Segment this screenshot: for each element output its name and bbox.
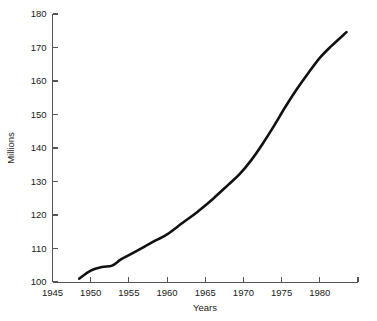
x-tick-label: 1950: [80, 287, 101, 298]
y-tick-label: 130: [31, 176, 47, 187]
x-axis-title: Years: [193, 302, 217, 313]
y-tick-label: 170: [31, 42, 47, 53]
y-tick-label: 120: [31, 209, 47, 220]
x-tick-label: 1945: [42, 287, 63, 298]
data-series-line: [79, 32, 346, 279]
y-axis-ticks: [53, 14, 58, 282]
axes-group: [53, 14, 359, 283]
line-chart-figure: 100110120130140150160170180 194519501955…: [0, 0, 377, 321]
y-axis-title: Millions: [5, 132, 16, 164]
x-axis-ticks: [53, 277, 359, 282]
x-tick-label: 1970: [233, 287, 254, 298]
y-tick-label: 160: [31, 75, 47, 86]
x-tick-label: 1980: [309, 287, 330, 298]
chart-canvas: 100110120130140150160170180 194519501955…: [0, 0, 377, 321]
y-tick-label: 140: [31, 142, 47, 153]
x-tick-label: 1955: [118, 287, 139, 298]
y-tick-label: 110: [31, 243, 46, 254]
y-tick-label: 100: [31, 276, 47, 287]
x-axis-tick-labels: 19451950195519601965197019751980: [42, 287, 330, 298]
y-tick-label: 180: [31, 8, 47, 19]
y-axis-tick-labels: 100110120130140150160170180: [31, 8, 47, 287]
x-tick-label: 1975: [271, 287, 292, 298]
y-tick-label: 150: [31, 109, 47, 120]
x-tick-label: 1965: [195, 287, 216, 298]
x-tick-label: 1960: [156, 287, 177, 298]
